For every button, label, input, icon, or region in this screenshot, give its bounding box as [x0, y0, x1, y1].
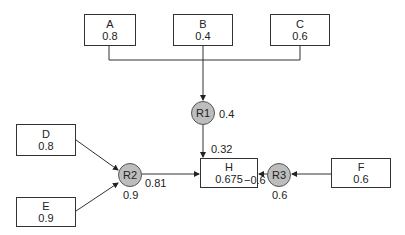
r2-weight: 0.9: [123, 189, 138, 201]
r1-output: 0.32: [211, 143, 232, 155]
input-a-value: 0.8: [85, 30, 135, 42]
input-b-label: B: [174, 18, 232, 30]
input-e-label: E: [17, 200, 75, 212]
rule-node-r1: R1: [191, 101, 215, 125]
rule-node-r3: R3: [267, 163, 291, 187]
input-a-label: A: [85, 18, 135, 30]
input-box-b: B 0.4: [173, 14, 233, 46]
input-c-label: C: [271, 18, 329, 30]
input-d-label: D: [17, 128, 75, 140]
r1-weight: 0.4: [219, 108, 234, 120]
input-b-value: 0.4: [174, 30, 232, 42]
r3-weight: 0.6: [272, 189, 287, 201]
target-h-label: H: [201, 161, 257, 173]
input-box-f: F 0.6: [331, 158, 391, 188]
rule-node-r2: R2: [118, 163, 142, 187]
input-box-e: E 0.9: [16, 197, 76, 227]
r3-output: −0.6: [244, 174, 266, 186]
input-c-value: 0.6: [271, 30, 329, 42]
input-d-value: 0.8: [17, 140, 75, 152]
input-f-label: F: [332, 161, 390, 173]
input-e-value: 0.9: [17, 212, 75, 224]
input-box-d: D 0.8: [16, 124, 76, 156]
input-f-value: 0.6: [332, 173, 390, 185]
r2-output: 0.81: [145, 177, 166, 189]
input-box-c: C 0.6: [270, 14, 330, 46]
input-box-a: A 0.8: [84, 14, 136, 46]
